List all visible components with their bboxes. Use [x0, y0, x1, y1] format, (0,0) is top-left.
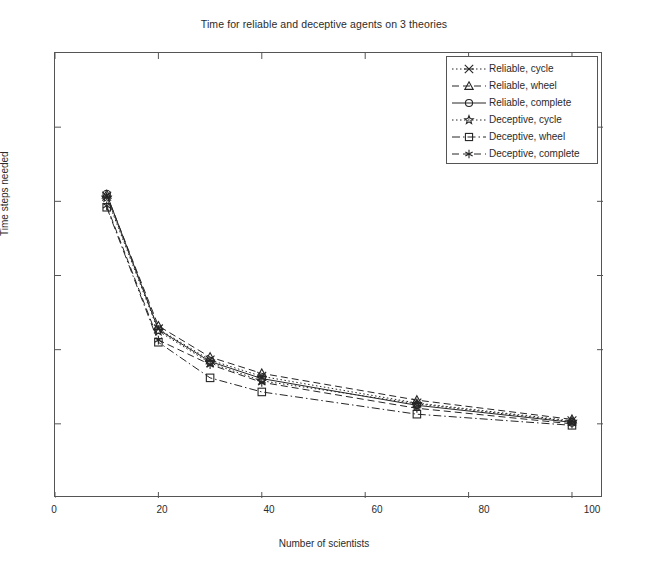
xtick-label-40: 40 [249, 504, 289, 515]
legend-item-deceptive-cycle: Deceptive, cycle [447, 111, 597, 128]
legend-label-1: Reliable, wheel [489, 78, 557, 94]
xtick-label-0: 0 [34, 504, 74, 515]
legend-label-3: Deceptive, cycle [489, 112, 562, 128]
xtick-label-80: 80 [464, 504, 504, 515]
legend-sample-1 [449, 78, 489, 94]
legend-label-5: Deceptive, complete [489, 146, 580, 162]
x-axis-label: Number of scientists [0, 538, 648, 549]
legend-sample-5 [449, 146, 489, 162]
legend-sample-0 [449, 61, 489, 77]
legend-item-reliable-complete: Reliable, complete [447, 94, 597, 111]
legend-item-reliable-cycle: Reliable, cycle [447, 60, 597, 77]
page-title: Time for reliable and deceptive agents o… [0, 18, 648, 30]
figure-canvas: Time for reliable and deceptive agents o… [0, 0, 648, 565]
legend-sample-4 [449, 129, 489, 145]
legend: Reliable, cycle Reliable, wheel Reliable… [446, 56, 598, 164]
xtick-label-60: 60 [357, 504, 397, 515]
legend-item-deceptive-complete: Deceptive, complete [447, 145, 597, 162]
legend-label-0: Reliable, cycle [489, 61, 553, 77]
legend-label-2: Reliable, complete [489, 95, 571, 111]
legend-sample-3 [449, 112, 489, 128]
xtick-label-20: 20 [142, 504, 182, 515]
legend-label-4: Deceptive, wheel [489, 129, 565, 145]
legend-sample-2 [449, 95, 489, 111]
legend-item-reliable-wheel: Reliable, wheel [447, 77, 597, 94]
xtick-label-100: 100 [572, 504, 612, 515]
legend-item-deceptive-wheel: Deceptive, wheel [447, 128, 597, 145]
y-axis-label: Time steps needed [0, 151, 10, 236]
